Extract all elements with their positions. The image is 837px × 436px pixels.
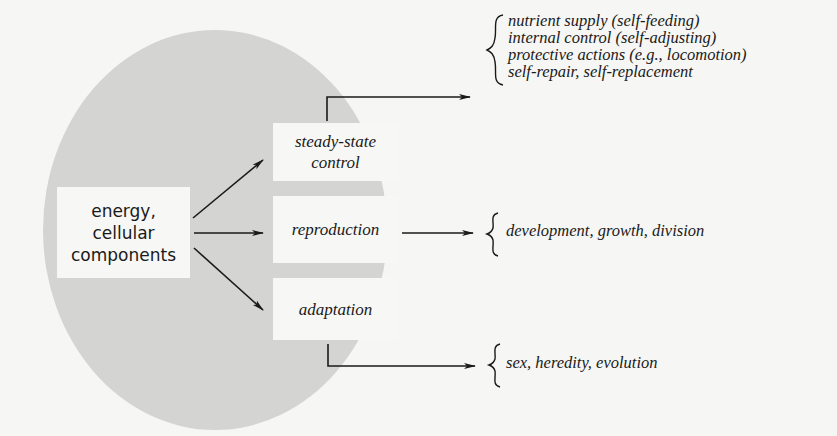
outcome-item: self-repair, self-replacement: [508, 63, 747, 80]
outcome-item: internal control (self-adjusting): [508, 29, 747, 46]
brace-reproduction: [487, 213, 498, 256]
outcome-item: development, growth, division: [506, 222, 704, 239]
arrow-steady-state-out: [327, 97, 470, 121]
arrow-to-adaptation: [194, 248, 263, 310]
outcome-item: nutrient supply (self-feeding): [508, 12, 747, 29]
arrow-to-steady-state: [193, 160, 263, 218]
reproduction-outcomes: development, growth, division: [506, 222, 704, 239]
adaptation-outcomes: sex, heredity, evolution: [506, 354, 658, 371]
steady-state-outcomes: nutrient supply (self-feeding) internal …: [508, 12, 747, 80]
brace-adaptation: [489, 344, 500, 387]
brace-steady-state: [487, 15, 503, 85]
outcome-item: sex, heredity, evolution: [506, 354, 658, 371]
arrow-adaptation-out: [328, 344, 475, 366]
outcome-item: protective actions (e.g., locomotion): [508, 46, 747, 63]
